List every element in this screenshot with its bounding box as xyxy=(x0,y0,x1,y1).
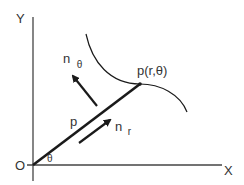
origin-label: O xyxy=(15,158,25,173)
polar-diagram: Y X O θ p p(r,θ) n r n θ xyxy=(0,0,244,185)
x-axis-label: X xyxy=(224,163,233,178)
point-label: p(r,θ) xyxy=(137,63,167,78)
point-marker xyxy=(138,82,142,86)
unit-vector-n-theta-label: n θ xyxy=(63,49,83,70)
radius-vector-label: p xyxy=(70,114,77,129)
unit-vector-n-r-label: n r xyxy=(115,117,132,137)
unit-vector-n-r-arrow xyxy=(79,120,110,143)
unit-vector-n-theta-arrow xyxy=(73,76,97,106)
y-axis-label: Y xyxy=(16,11,25,26)
